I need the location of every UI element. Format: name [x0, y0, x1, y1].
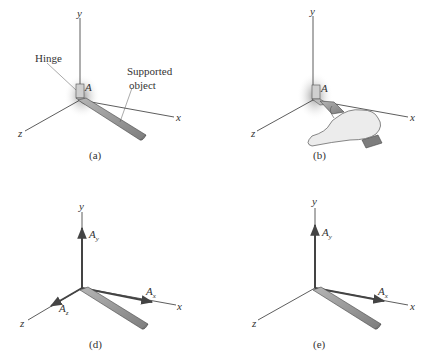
y-axis-label: y [309, 5, 315, 17]
z-axis [25, 100, 80, 131]
force-az-label: Az [58, 302, 69, 317]
supported-object-bar [78, 98, 146, 140]
point-a-label: A [84, 81, 92, 93]
supported-object-bar [80, 287, 148, 329]
point-a-label: A [320, 82, 328, 94]
z-axis-label: z [17, 127, 23, 139]
caption-d: (d) [89, 338, 102, 351]
force-az-arrow [51, 288, 82, 306]
force-ax-label: Ax [377, 285, 389, 300]
y-axis-label: y [78, 200, 84, 212]
z-axis-label: z [250, 127, 256, 139]
x-axis-label: x [409, 300, 415, 312]
hinge-label: Hinge [35, 52, 62, 64]
panel-d: y x z Ay Ax Az (d) [19, 200, 182, 351]
caption-a: (a) [89, 149, 102, 162]
panel-e: y x z Ay Ax (e) [251, 195, 415, 351]
force-ay-label: Ay [88, 228, 100, 243]
panel-b: y x z A (b) [250, 5, 415, 162]
supported-label: Supported [127, 65, 173, 77]
force-ax-label: Ax [145, 285, 157, 300]
z-axis-label: z [251, 317, 257, 329]
caption-e: (e) [313, 338, 326, 351]
panel-a: y x z A Hinge Supported object (a) [17, 7, 181, 162]
x-axis-label: x [175, 111, 181, 123]
x-axis-label: x [409, 111, 415, 123]
x-axis-label: x [176, 300, 182, 312]
object-label: object [129, 79, 156, 91]
diagram-canvas: y x z A Hinge Supported object (a) y x z… [0, 0, 431, 360]
z-axis [258, 288, 315, 320]
hinge-leader [47, 63, 76, 90]
z-axis-label: z [19, 317, 25, 329]
force-ay-label: Ay [321, 226, 333, 241]
object-leader [120, 88, 132, 122]
caption-b: (b) [313, 149, 326, 162]
y-axis-label: y [311, 195, 317, 207]
y-axis-label: y [76, 7, 82, 19]
